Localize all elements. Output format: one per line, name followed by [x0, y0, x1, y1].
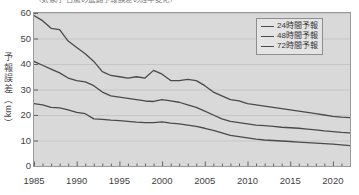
x-axis-tick-label: 2015 [280, 176, 301, 186]
x-axis-tick-label: 1985 [23, 176, 44, 186]
y-axis-tick-label: 40 [15, 59, 31, 69]
y-axis-tick-labels: 0102030405060 [13, 0, 31, 195]
y-axis-tick-label: 20 [15, 110, 31, 120]
legend-item-label: 48時間予報 [277, 31, 318, 41]
x-axis-tick-label: 1995 [109, 176, 130, 186]
legend-line-swatch [261, 26, 274, 27]
y-axis-tick-label: 30 [15, 85, 31, 95]
y-axis-tick-label: 50 [15, 34, 31, 44]
legend-item[interactable]: 48時間予報 [261, 31, 318, 41]
y-axis-title-close-paren: ） [3, 115, 14, 129]
legend-item[interactable]: 24時間予報 [261, 21, 318, 31]
series-line-2 [34, 61, 350, 132]
legend-line-swatch [261, 46, 274, 47]
forecast-error-chart: （気象庁 台風の進路予報誤差の経年変化） 予 報 誤 差 （ km ） 0102… [0, 0, 359, 195]
chart-top-caption: （気象庁 台風の進路予報誤差の経年変化） [34, 0, 350, 3]
x-axis-tick-label: 2010 [237, 176, 258, 186]
series-line-1 [34, 104, 350, 146]
legend-item[interactable]: 72時間予報 [261, 41, 318, 51]
chart-legend: 24時間予報48時間予報72時間予報 [256, 18, 323, 55]
y-axis-tick-label: 60 [15, 8, 31, 18]
legend-item-label: 24時間予報 [277, 21, 318, 31]
x-axis-tick-labels: 19851990199520002005201020152020 [0, 176, 359, 190]
legend-item-label: 72時間予報 [277, 41, 318, 51]
x-axis-tick-label: 1990 [66, 176, 87, 186]
y-axis-tick-label: 0 [15, 161, 31, 171]
x-axis-tick-label: 2005 [194, 176, 215, 186]
y-axis-tick-label: 10 [15, 136, 31, 146]
x-axis-tick-label: 2020 [322, 176, 343, 186]
x-axis-tick-label: 2000 [152, 176, 173, 186]
legend-line-swatch [261, 36, 274, 37]
